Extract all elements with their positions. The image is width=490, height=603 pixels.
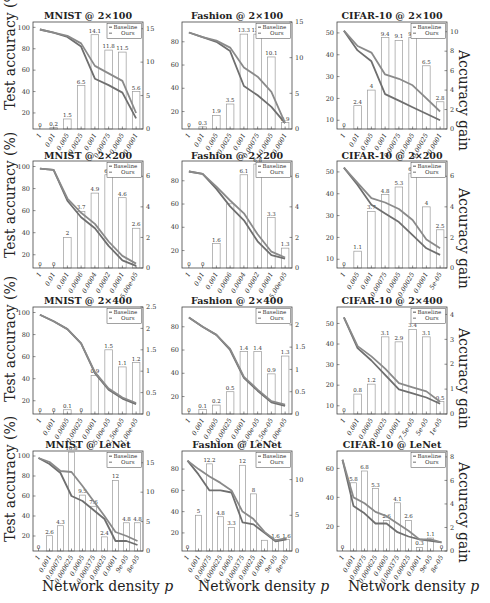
- gain-bar-label: 8: [252, 487, 256, 493]
- y-tick-label: 100: [18, 163, 30, 171]
- y2-tick-label: 0.5: [146, 389, 156, 397]
- gain-bar: [254, 352, 262, 414]
- gain-bar-label: 3.3: [267, 211, 276, 217]
- y2-tick-label: 1: [146, 367, 150, 375]
- y-tick-label: 50: [326, 29, 334, 37]
- legend-entry: Ours: [270, 459, 284, 465]
- gain-bar: [268, 218, 276, 268]
- chart-title: MNIST @ 2×100: [44, 10, 132, 21]
- y2-tick-label: 1: [295, 366, 299, 374]
- y2-tick-label: 0: [450, 264, 454, 272]
- legend-entry: Ours: [121, 169, 135, 175]
- y2-tick-label: 2: [295, 234, 299, 242]
- gain-bar: [68, 452, 74, 551]
- chart-svg: MNIST @ 2×10000.21.56.514.111.811.55.620…: [33, 11, 183, 169]
- y2-tick-label: 4: [450, 311, 454, 319]
- gain-bar: [213, 244, 221, 268]
- x-tick-label: 1: [35, 271, 44, 279]
- legend-entry: Ours: [425, 459, 439, 465]
- y2-tick-label: 10: [450, 28, 458, 36]
- y-tick-label: 40: [326, 51, 334, 59]
- y2-tick-label: 2: [450, 106, 454, 114]
- y-tick-label: 40: [22, 88, 30, 96]
- chart-title: MNIST @ LeNet: [45, 439, 131, 450]
- y2-tick-label: 6: [450, 477, 454, 485]
- plot-area: 001.66.16.83.31.320406080024610.010.0010…: [171, 157, 299, 300]
- x-tick-label: 5e-05: [428, 271, 444, 291]
- y2-tick-label: 0: [146, 547, 150, 555]
- x-tick-label: 1: [35, 417, 44, 425]
- plot-area: 00.81.23.12.93.43.10.510203040500123410.…: [326, 307, 454, 444]
- gain-bar-label: 9.1: [395, 33, 404, 39]
- gain-bar-label: 1.5: [63, 112, 72, 118]
- chart-svg: Fashion @ 2×10000.31.93.513.313.310.10.9…: [182, 11, 332, 169]
- y2-tick-label: 5: [146, 92, 150, 100]
- gain-bar-label: 0.1: [198, 403, 207, 409]
- y-tick-label: 80: [22, 331, 30, 339]
- y-tick-label: 20: [326, 234, 334, 242]
- legend: BaselineOurs: [256, 24, 291, 39]
- y-tick-label: 60: [171, 200, 179, 208]
- y-tick-label: 20: [326, 95, 334, 103]
- plot-area: 05.86.85.32.64.12.60.31.102040600246810.…: [326, 451, 454, 585]
- gain-bar-label: 6.5: [422, 59, 431, 65]
- y2-tick-label: 6: [295, 172, 299, 180]
- gain-bar: [90, 506, 96, 551]
- y2-tick-label: 6: [450, 67, 454, 75]
- legend: BaselineOurs: [256, 309, 291, 324]
- y-axis-label-right-row2: Accuracy gain: [456, 188, 472, 289]
- gain-bar-label: 1.6: [212, 237, 221, 243]
- y2-tick-label: 0: [146, 264, 150, 272]
- y2-tick-label: 3: [450, 336, 454, 344]
- y-tick-label: 80: [171, 38, 179, 46]
- y2-tick-label: 8: [450, 453, 454, 461]
- y-tick-label: 100: [18, 309, 30, 317]
- gain-bar: [254, 164, 262, 268]
- gain-bar: [91, 35, 99, 129]
- y-tick-label: 50: [326, 320, 334, 328]
- x-tick-label: 1: [339, 271, 348, 279]
- gain-bar-label: 11.5: [116, 45, 129, 51]
- gain-bar-label: 1.6: [282, 533, 291, 539]
- x-tick-label: 1e-05: [428, 417, 444, 437]
- legend: BaselineOurs: [411, 309, 446, 324]
- y-tick-label: 20: [171, 108, 179, 116]
- y-tick-label: 50: [326, 168, 334, 176]
- y2-tick-label: 0: [295, 410, 299, 418]
- gain-bar: [254, 34, 262, 129]
- gain-bar-label: 1.4: [253, 345, 262, 351]
- legend: BaselineOurs: [256, 453, 291, 468]
- gain-bar-label: 0.8: [353, 387, 362, 393]
- gain-bar-label: 6.8: [360, 464, 369, 470]
- y-tick-label: 10: [326, 255, 334, 263]
- plot-area: 00.31.93.513.313.310.10.9204060800510151…: [171, 18, 304, 159]
- gain-bar-label: 4.8: [122, 516, 131, 522]
- gain-bar-label: 2.6: [45, 529, 54, 535]
- gain-bar-label: 3.1: [381, 330, 390, 336]
- y-axis-label-left-row2: Test accuracy (%): [2, 132, 18, 258]
- gain-bar-label: 4.8: [381, 188, 390, 194]
- y-tick-label: 20: [22, 397, 30, 405]
- y-tick-label: 80: [171, 323, 179, 331]
- y2-tick-label: 2: [450, 234, 454, 242]
- gain-bar: [228, 527, 234, 551]
- y-tick-label: 80: [22, 185, 30, 193]
- gain-bar-label: 16.8: [65, 445, 78, 451]
- x-tick-label: 1: [182, 554, 191, 562]
- y-tick-label: 100: [18, 24, 30, 32]
- y-tick-label: 40: [326, 494, 334, 502]
- chart-panel: MNIST @ 2×2000023.74.96.14.62.6204060801…: [33, 151, 183, 312]
- y-tick-label: 20: [171, 393, 179, 401]
- gain-bar-label: 2: [66, 230, 70, 236]
- gain-bar: [105, 175, 113, 268]
- y-tick-label: 20: [22, 251, 30, 259]
- chart-panel: MNIST @ 2×400000.100.91.51.11.2204060801…: [33, 296, 183, 458]
- y-tick-label: 40: [171, 369, 179, 377]
- gain-bar-label: 6.1: [240, 168, 249, 174]
- y2-tick-label: 6: [146, 172, 150, 180]
- gain-bar: [217, 517, 223, 551]
- chart-title: Fashion @ LeNet: [192, 439, 282, 450]
- plot-area: 0023.74.96.14.62.620406080100024610.010.…: [18, 161, 151, 300]
- y2-tick-label: 4: [295, 203, 299, 211]
- chart-svg: MNIST @ 2×2000023.74.96.14.62.6204060801…: [33, 151, 183, 308]
